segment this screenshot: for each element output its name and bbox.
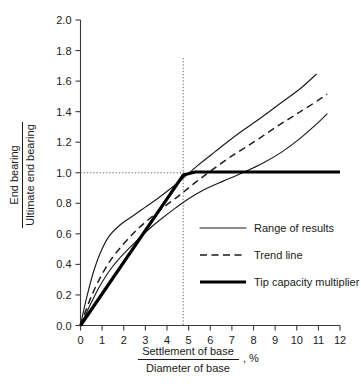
x-tick-label: 11 <box>313 334 324 346</box>
y-tick-label: 0.2 <box>56 289 71 301</box>
x-axis-title-denominator: Diameter of base <box>146 362 230 374</box>
legend-label-0: Range of results <box>254 222 335 234</box>
legend-label-2: Tip capacity multiplier <box>254 276 360 288</box>
y-tick-label: 1.0 <box>56 167 71 179</box>
x-tick-label: 12 <box>334 334 346 346</box>
chart-legend: Range of resultsTrend lineTip capacity m… <box>200 222 360 288</box>
y-tick-label: 1.2 <box>56 136 71 148</box>
y-tick-label: 1.6 <box>56 75 71 87</box>
x-tick-label: 9 <box>272 334 278 346</box>
chart-figure: 0.00.20.40.60.81.01.21.41.61.82.0 012345… <box>0 0 361 387</box>
x-tick-label: 7 <box>229 334 235 346</box>
x-tick-label: 10 <box>291 334 303 346</box>
x-tick-group: 0123456789101112 <box>77 326 346 346</box>
data-series-lower-bound <box>81 114 328 326</box>
y-tick-label: 0.4 <box>56 258 71 270</box>
x-axis-title-numerator: Settlement of base <box>142 345 234 357</box>
legend-label-1: Trend line <box>254 249 303 261</box>
y-tick-group: 0.00.20.40.60.81.01.21.41.61.82.0 <box>56 14 80 332</box>
y-tick-label: 0.6 <box>56 228 71 240</box>
x-tick-label: 4 <box>164 334 170 346</box>
x-tick-label: 8 <box>250 334 256 346</box>
data-series-trend <box>81 94 328 325</box>
x-tick-label: 6 <box>207 334 213 346</box>
y-axis-title: End bearing Ultimate end bearing <box>8 122 36 228</box>
y-tick-label: 0.8 <box>56 197 71 209</box>
x-tick-label: 5 <box>186 334 192 346</box>
y-axis-title-numerator: End bearing <box>8 145 20 204</box>
y-tick-label: 1.4 <box>56 106 71 118</box>
y-axis-title-denominator: Ultimate end bearing <box>24 124 36 226</box>
y-tick-label: 2.0 <box>56 14 71 26</box>
x-tick-label: 2 <box>121 334 127 346</box>
x-tick-label: 1 <box>99 334 105 346</box>
x-tick-label: 0 <box>77 334 83 346</box>
x-axis-title-unit: , % <box>243 352 259 364</box>
x-tick-label: 3 <box>142 334 148 346</box>
x-axis-title: Settlement of base Diameter of base , % <box>138 345 259 374</box>
chart-plot-area: 0.00.20.40.60.81.01.21.41.61.82.0 012345… <box>0 0 361 387</box>
y-tick-label: 1.8 <box>56 45 71 57</box>
y-tick-label: 0.0 <box>56 320 71 332</box>
